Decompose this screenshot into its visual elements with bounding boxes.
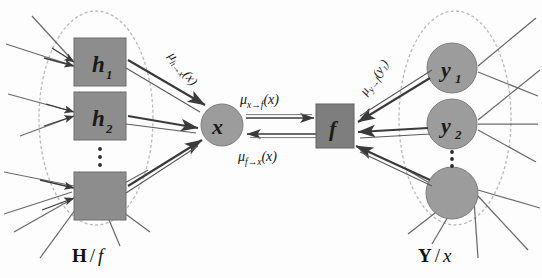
f-to-x-argument: (x) [261,149,277,165]
right-group-label-slash: / [435,245,441,266]
h1-subscript: 1 [106,67,113,82]
right-group-label-bold: Y [418,245,432,266]
h2-label: h [92,106,105,131]
arrow-yn-to-f [356,146,430,180]
y1-subscript: 1 [455,71,462,86]
left-group-ellipsis [98,147,102,167]
left-group-label: H/f [72,245,106,266]
arrow-y2-to-f [358,128,428,132]
h2-subscript: 2 [105,121,113,136]
right-group-label: Y/x [418,245,452,266]
f-to-x-mu: μ [237,149,245,164]
factor-graph-diagram: h 1 h 2 y 1 y 2 [0,0,542,278]
x-label: x [211,114,223,139]
x-to-f-argument: (x) [263,92,279,108]
left-group-label-slash: / [90,245,96,266]
arrow-hn-to-x [128,140,202,186]
h1-node[interactable]: h 1 [74,38,126,86]
x-to-f-mu: μ [239,92,247,107]
left-group-label-italic: f [98,245,106,266]
right-group-ellipsis [450,150,454,168]
right-group-label-italic: x [442,245,452,266]
left-group-label-bold: H [72,245,87,266]
x-variable-node[interactable]: x [201,104,243,146]
f-factor-node[interactable]: f [316,104,354,148]
f-to-x-message-label: μf→x(x) [237,149,277,167]
h1-label: h [92,52,105,77]
y2-node[interactable]: y 2 [427,99,477,149]
figure-canvas: h 1 h 2 y 1 y 2 [0,0,542,278]
y-to-f-message-label: μy→f(y₁) [356,57,393,100]
hn-node[interactable] [74,172,126,220]
arrow-h2-to-x [128,116,198,128]
x-to-f-subscript: x→f [246,100,265,110]
x-to-f-message-label: μx→f(x) [239,92,279,110]
h2-node[interactable]: h 2 [74,92,126,140]
f-to-x-subscript: f→x [245,157,262,167]
y1-node[interactable]: y 1 [427,43,477,93]
x-f-message-arrows [246,115,316,138]
yn-node[interactable] [426,167,478,219]
y2-subscript: 2 [454,127,462,142]
svg-text:μy→f(y₁): μy→f(y₁) [356,57,393,100]
